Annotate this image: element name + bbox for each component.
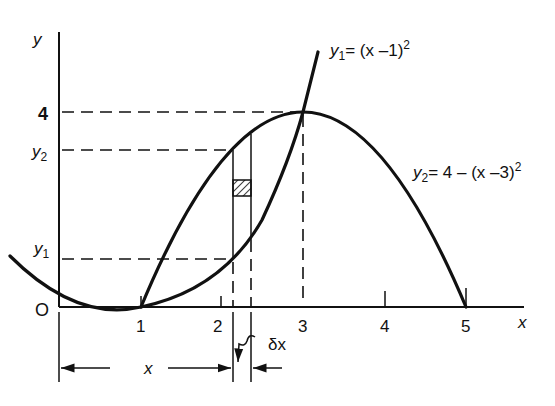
y2-marker-label: y2 <box>31 142 48 164</box>
area-between-curves-diagram: y x O 1 2 3 4 5 4 y2 y1 y1= (x –1)2 y2= … <box>0 0 555 406</box>
x-tick-2: 2 <box>213 317 222 336</box>
x-tick-1: 1 <box>136 317 145 336</box>
dx-label: δx <box>268 335 286 354</box>
curve-y2-equation: y2= 4 – (x –3)2 <box>412 160 522 185</box>
curve-y1 <box>10 52 318 310</box>
x-span-label: x <box>143 359 153 378</box>
x-tick-3: 3 <box>298 317 307 336</box>
y-tick-4: 4 <box>38 104 48 124</box>
y-axis-label: y <box>32 30 43 49</box>
x-tick-4: 4 <box>380 317 389 336</box>
hatched-element <box>233 180 251 196</box>
y1-marker-label: y1 <box>33 239 50 261</box>
origin-label: O <box>35 300 49 320</box>
dx-leader-arrow <box>238 336 255 362</box>
x-tick-5: 5 <box>461 317 470 336</box>
curve-y1-equation: y1= (x –1)2 <box>329 38 410 63</box>
x-axis-label: x <box>517 313 527 332</box>
